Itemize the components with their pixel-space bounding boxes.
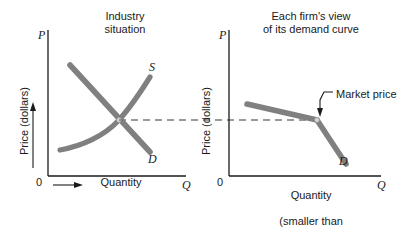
left-x-axis-name: Quantity — [68, 176, 174, 189]
left-y-axis-name: Price (dollars) — [18, 87, 30, 155]
right-x-axis-letter: Q — [377, 178, 386, 193]
left-price-arrow-head — [30, 102, 36, 111]
economics-figure: Industry situation Each firm's view of i… — [0, 0, 413, 229]
left-y-axis-letter: P — [38, 28, 45, 43]
right-x-axis-name: Quantity (smaller than industry quantity… — [240, 176, 370, 229]
market-price-annotation: Market price — [336, 88, 397, 100]
left-origin-label: 0 — [36, 176, 42, 188]
left-panel-axes — [48, 30, 186, 176]
supply-curve-label: S — [149, 60, 155, 75]
right-origin-label: 0 — [217, 176, 223, 188]
right-x-axis-name-main: Quantity — [291, 189, 332, 201]
left-x-axis-letter: Q — [182, 178, 191, 193]
right-y-axis-letter: P — [219, 28, 226, 43]
right-y-axis-name: Price (dollars) — [200, 87, 212, 155]
demand-curve-label-right: D — [339, 154, 348, 169]
panel-title-industry: Industry situation — [62, 10, 188, 36]
right-x-axis-subnote: (smaller than industry quantity) — [263, 215, 347, 229]
market-price-point — [315, 118, 320, 123]
demand-curve-left — [70, 65, 150, 152]
market-price-leader-line — [320, 92, 333, 110]
firm-demand-flat-segment — [247, 104, 317, 120]
market-price-leader — [317, 92, 333, 117]
panel-title-firm: Each firm's view of its demand curve — [243, 10, 379, 36]
market-price-leader-arrow — [317, 108, 323, 117]
right-panel-curves — [247, 104, 346, 164]
left-panel-curves — [60, 65, 150, 152]
demand-curve-label-left: D — [148, 152, 157, 167]
